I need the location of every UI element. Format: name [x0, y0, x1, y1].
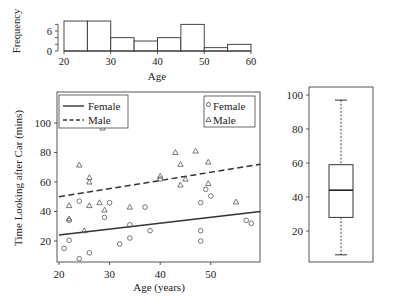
time-boxplot: 20406080100: [287, 87, 374, 262]
scatter-y-tick-label: 40: [40, 205, 52, 217]
scatter-y-tick-label: 60: [40, 176, 52, 188]
scatter-x-tick-label: 40: [155, 268, 167, 280]
legend-male-marker-label: Male: [213, 114, 236, 126]
female-point: [107, 200, 112, 205]
box-y-tick-label: 80: [292, 123, 304, 135]
female-point: [249, 221, 254, 226]
hist-bar: [87, 21, 110, 51]
scatter-y-tick-label: 100: [35, 117, 52, 129]
female-point: [198, 200, 203, 205]
hist-bar: [64, 21, 87, 51]
hist-x-label: Age: [148, 70, 166, 82]
chart-root: 203040506006 Frequency Age 2030405020406…: [0, 0, 393, 307]
hist-x-tick-label: 20: [59, 56, 70, 67]
male-fit-line: [59, 164, 260, 196]
hist-x-tick-label: 40: [152, 56, 163, 67]
marker-legend: Female Male: [204, 96, 255, 127]
hist-bar: [158, 38, 181, 51]
female-point: [244, 218, 249, 223]
female-point: [87, 251, 92, 256]
legend-female-line-label: Female: [88, 100, 120, 112]
hist-bar: [181, 24, 204, 51]
hist-x-tick-label: 30: [106, 56, 117, 67]
male-point: [206, 159, 211, 164]
male-point: [97, 200, 102, 205]
scatter-y-tick-label: 20: [40, 235, 52, 247]
legend-male-line-label: Male: [88, 114, 111, 126]
box-y-tick-label: 60: [292, 157, 304, 169]
scatter-x-tick-label: 30: [104, 268, 116, 280]
female-point: [67, 238, 72, 243]
male-point: [206, 181, 211, 186]
scatter-x-label: Age (years): [133, 281, 185, 294]
scatter-y-label: Time Looking after Car (mins): [12, 110, 25, 246]
female-point: [203, 187, 208, 192]
male-point: [178, 162, 183, 167]
male-point: [173, 150, 178, 155]
line-legend: Female Male: [59, 95, 128, 128]
box-y-tick-label: 20: [292, 225, 304, 237]
female-point: [209, 194, 214, 199]
hist-x-tick-label: 60: [246, 56, 257, 67]
female-point: [128, 236, 133, 241]
scatter-x-tick-label: 50: [205, 268, 217, 280]
age-histogram: 203040506006: [47, 21, 257, 67]
male-point: [66, 203, 71, 208]
female-fit-line: [59, 212, 260, 236]
hist-bar: [134, 41, 157, 51]
male-point: [87, 203, 92, 208]
female-point: [77, 199, 82, 204]
female-point: [102, 215, 107, 220]
female-point: [158, 177, 163, 182]
male-point: [158, 173, 163, 178]
male-point: [233, 199, 238, 204]
female-point: [148, 228, 153, 233]
box-y-tick-label: 40: [292, 191, 304, 203]
male-point: [102, 207, 107, 212]
hist-y-label: Frequency: [11, 8, 22, 53]
female-point: [198, 239, 203, 244]
male-point: [127, 204, 132, 209]
hist-x-tick-label: 50: [199, 56, 210, 67]
female-point: [198, 228, 203, 233]
hist-y-tick-label: 0: [47, 46, 52, 57]
scatter-x-tick-label: 20: [54, 268, 66, 280]
female-point: [143, 205, 148, 210]
legend-female-marker-label: Female: [213, 100, 245, 112]
female-point: [117, 242, 122, 247]
scatter-y-tick-label: 80: [40, 146, 52, 158]
iqr-box: [329, 165, 353, 218]
hist-bar: [111, 38, 134, 51]
male-point: [178, 182, 183, 187]
hist-bar: [228, 44, 251, 51]
female-point: [77, 256, 82, 261]
male-point: [77, 162, 82, 167]
box-y-tick-label: 100: [287, 89, 304, 101]
hist-y-tick-label: 6: [47, 26, 52, 37]
male-point: [193, 148, 198, 153]
female-point: [62, 246, 67, 251]
